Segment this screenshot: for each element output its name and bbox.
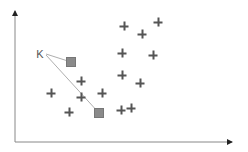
plus-point-icon [47,89,56,98]
plus-point-icon [138,30,147,39]
plus-point-icon [65,108,74,117]
plus-point-icon [77,77,86,86]
plus-point-icon [127,104,136,113]
plus-point-icon [118,49,127,58]
neighbor-square-icon [94,108,104,118]
plus-point-icon [118,71,127,80]
plus-point-icon [154,18,163,27]
query-label: K [36,48,43,60]
plus-point-icon [149,51,158,60]
plus-point-icon [77,93,86,102]
neighbor-square-icon [66,57,76,67]
plus-point-icon [117,106,126,115]
plus-point-icon [136,79,145,88]
plus-point-icon [98,89,107,98]
plus-point-icon [120,22,129,31]
